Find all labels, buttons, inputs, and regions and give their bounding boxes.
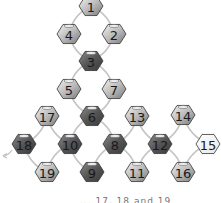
node-label: 12: [152, 138, 169, 153]
node-4[interactable]: 4: [57, 24, 81, 43]
node-16[interactable]: 16: [171, 162, 195, 181]
node-17[interactable]: 17: [35, 106, 59, 125]
node-label: 16: [175, 166, 192, 181]
node-label: 6: [88, 110, 96, 125]
node-label: 5: [65, 83, 73, 98]
node-label: 17: [39, 110, 56, 125]
node-label: 18: [16, 138, 33, 153]
node-label: 9: [88, 166, 96, 181]
node-label: 7: [110, 83, 118, 98]
node-14[interactable]: 14: [171, 105, 195, 124]
node-layer: 14235761713141810812151991116: [12, 0, 220, 182]
node-diagram: 14235761713141810812151991116 ... 17, 18…: [0, 0, 222, 203]
node-7[interactable]: 7: [102, 79, 126, 98]
node-label: 4: [65, 28, 73, 43]
node-6[interactable]: 6: [80, 106, 104, 125]
node-label: 14: [175, 109, 192, 124]
node-label: 8: [111, 138, 119, 153]
node-12[interactable]: 12: [148, 134, 172, 153]
node-10[interactable]: 10: [58, 134, 82, 153]
node-11[interactable]: 11: [125, 162, 149, 181]
node-8[interactable]: 8: [103, 134, 127, 153]
node-label: 3: [87, 55, 95, 70]
diagram-caption: ... 17, 18 and 19: [80, 196, 171, 203]
node-label: 15: [200, 138, 217, 153]
node-label: 1: [87, 0, 95, 15]
node-1[interactable]: 1: [79, 0, 103, 16]
diagram-canvas: 14235761713141810812151991116: [0, 0, 222, 203]
node-13[interactable]: 13: [125, 106, 149, 125]
node-2[interactable]: 2: [102, 24, 126, 43]
node-9[interactable]: 9: [80, 162, 104, 181]
node-label: 19: [39, 166, 56, 181]
node-label: 2: [110, 28, 118, 43]
node-19[interactable]: 19: [35, 162, 59, 181]
node-15[interactable]: 15: [196, 134, 220, 153]
node-label: 11: [129, 166, 146, 181]
node-18[interactable]: 18: [12, 134, 36, 153]
node-label: 10: [62, 138, 79, 153]
node-label: 13: [129, 110, 146, 125]
node-5[interactable]: 5: [57, 79, 81, 98]
node-3[interactable]: 3: [79, 51, 103, 70]
